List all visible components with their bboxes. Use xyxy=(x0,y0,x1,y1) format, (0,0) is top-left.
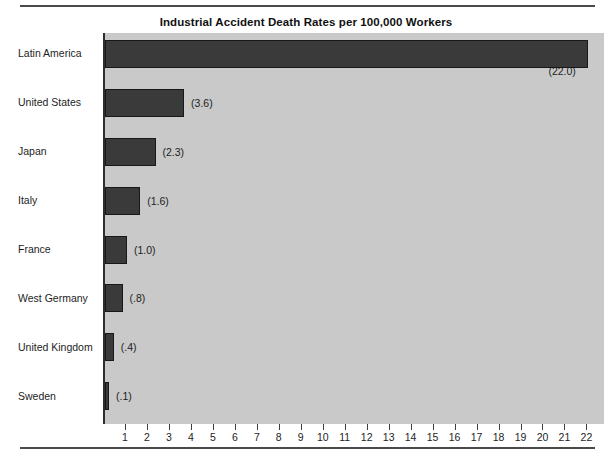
bar-value-label: (2.3) xyxy=(163,146,185,158)
bar xyxy=(105,382,109,410)
x-axis-tick-label: 9 xyxy=(298,431,304,443)
bar xyxy=(105,40,588,68)
x-axis: 12345678910111213141516171819202122 xyxy=(103,424,604,448)
bar xyxy=(105,333,114,361)
y-axis-label: United States xyxy=(18,96,81,108)
bar xyxy=(105,89,184,117)
bar-group: (2.3) xyxy=(105,138,184,166)
bar-group: (.1) xyxy=(105,382,132,410)
x-axis-tick-label: 6 xyxy=(232,431,238,443)
bar-row: (2.3) xyxy=(105,131,604,180)
y-axis-label: Latin America xyxy=(18,47,82,59)
x-axis-tick xyxy=(235,424,236,430)
bar-group: (.4) xyxy=(105,333,137,361)
bar xyxy=(105,284,123,312)
x-axis-tick-label: 13 xyxy=(383,431,395,443)
x-axis-tick-label: 22 xyxy=(581,431,593,443)
x-axis-tick xyxy=(301,424,302,430)
x-axis-tick xyxy=(323,424,324,430)
bar xyxy=(105,138,156,166)
y-axis-label: Japan xyxy=(18,145,47,157)
x-axis-tick xyxy=(257,424,258,430)
x-axis-tick xyxy=(279,424,280,430)
chart-figure: Industrial Accident Death Rates per 100,… xyxy=(0,0,612,461)
x-axis-tick xyxy=(389,424,390,430)
bar-value-label: (.4) xyxy=(121,341,137,353)
bar-row: (1.0) xyxy=(105,229,604,278)
chart-title: Industrial Accident Death Rates per 100,… xyxy=(0,16,612,28)
x-axis-tick-label: 19 xyxy=(515,431,527,443)
bar xyxy=(105,236,127,264)
x-axis-tick-label: 1 xyxy=(122,431,128,443)
x-axis-tick-label: 21 xyxy=(559,431,571,443)
x-axis-tick-label: 10 xyxy=(317,431,329,443)
x-axis-tick xyxy=(455,424,456,430)
bar-value-label: (1.6) xyxy=(147,195,169,207)
x-axis-tick xyxy=(477,424,478,430)
bar-value-label: (.1) xyxy=(116,390,132,402)
bar-group: (1.6) xyxy=(105,187,169,215)
x-axis-tick-label: 5 xyxy=(210,431,216,443)
x-axis-tick-label: 7 xyxy=(254,431,260,443)
x-axis-tick-label: 18 xyxy=(493,431,505,443)
x-axis-tick xyxy=(564,424,565,430)
x-axis-tick-label: 3 xyxy=(166,431,172,443)
x-axis-tick xyxy=(147,424,148,430)
x-axis-tick xyxy=(169,424,170,430)
bar-group xyxy=(105,40,588,68)
x-axis-tick-label: 14 xyxy=(405,431,417,443)
x-axis-tick xyxy=(125,424,126,430)
bar-group: (.8) xyxy=(105,284,145,312)
plot-area: (22.0)(3.6)(2.3)(1.6)(1.0)(.8)(.4)(.1) xyxy=(103,33,604,424)
y-axis-label: West Germany xyxy=(18,292,88,304)
bar-row: (.1) xyxy=(105,375,604,424)
bar-row: (.4) xyxy=(105,326,604,375)
bar xyxy=(105,187,140,215)
y-axis-label: France xyxy=(18,243,51,255)
x-axis-tick xyxy=(411,424,412,430)
x-axis-tick xyxy=(586,424,587,430)
x-axis-tick-label: 12 xyxy=(361,431,373,443)
x-axis-tick-label: 4 xyxy=(188,431,194,443)
x-axis-tick xyxy=(433,424,434,430)
bar-group: (1.0) xyxy=(105,236,156,264)
x-axis-tick xyxy=(521,424,522,430)
bar-value-label: (1.0) xyxy=(134,244,156,256)
top-divider-rule xyxy=(20,5,595,7)
x-axis-tick-label: 8 xyxy=(276,431,282,443)
x-axis-tick xyxy=(499,424,500,430)
y-axis-category-labels: Latin AmericaUnited StatesJapanItalyFran… xyxy=(0,33,96,424)
x-axis-tick-label: 2 xyxy=(144,431,150,443)
bar-row: (1.6) xyxy=(105,180,604,229)
y-axis-label: Sweden xyxy=(18,390,56,402)
bar-row: (.8) xyxy=(105,277,604,326)
x-axis-tick-label: 11 xyxy=(339,431,350,443)
x-axis-tick-label: 16 xyxy=(449,431,461,443)
bar-value-label: (.8) xyxy=(130,292,146,304)
bar-group: (3.6) xyxy=(105,89,213,117)
x-axis-tick-label: 20 xyxy=(537,431,549,443)
y-axis-label: Italy xyxy=(18,194,37,206)
x-axis-tick xyxy=(213,424,214,430)
y-axis-label: United Kingdom xyxy=(18,341,93,353)
bar-row: (3.6) xyxy=(105,82,604,131)
bottom-divider-rule xyxy=(20,447,595,449)
x-axis-tick-label: 15 xyxy=(427,431,439,443)
x-axis-tick xyxy=(367,424,368,430)
bar-value-label: (3.6) xyxy=(191,97,213,109)
x-axis-tick-label: 17 xyxy=(471,431,483,443)
x-axis-tick xyxy=(542,424,543,430)
x-axis-tick xyxy=(191,424,192,430)
bar-row: (22.0) xyxy=(105,33,604,82)
x-axis-tick xyxy=(345,424,346,430)
